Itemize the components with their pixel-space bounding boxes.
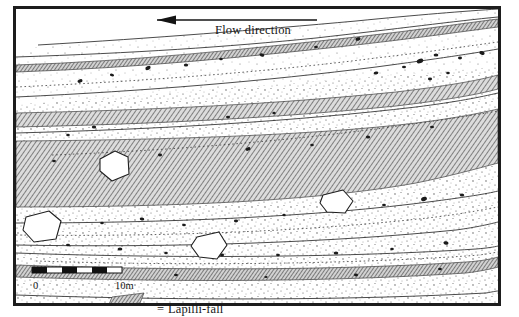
cross-section-drawing — [16, 9, 498, 303]
legend-equals-sign: = — [157, 302, 164, 317]
legend-item-label-lapilli-fall: Lapilli-fall — [168, 302, 223, 317]
scale-bar — [32, 267, 122, 273]
figure-frame: Flow direction 0 10m = Lapilli-fall — [13, 6, 501, 306]
scale-bar-start-label: 0 — [33, 280, 38, 291]
flow-direction-label: Flow direction — [215, 23, 291, 38]
scale-bar-end-label: 10m — [115, 280, 134, 291]
figure-canvas: Flow direction 0 10m = Lapilli-fall — [0, 0, 519, 317]
